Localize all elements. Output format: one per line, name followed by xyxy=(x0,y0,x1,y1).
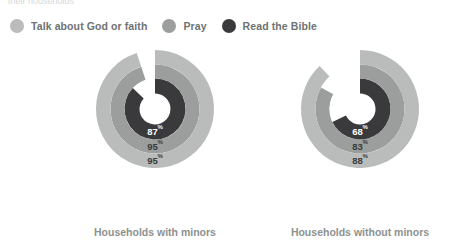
donut-svg: 88%83%68% xyxy=(301,50,419,168)
legend-item-bible[interactable]: Read the Bible xyxy=(222,19,317,33)
legend-item-label: Pray xyxy=(183,20,206,32)
donut-rings: 88%83%68% xyxy=(301,50,419,168)
donut-svg: 95%95%87% xyxy=(96,50,214,168)
legend-item-label: Read the Bible xyxy=(243,20,317,32)
circle-swatch-icon xyxy=(222,19,236,33)
donut-chart-households-with-minors: 95%95%87% Households with minors xyxy=(55,50,255,251)
top-caption-strip: their households xyxy=(8,0,308,6)
legend-item-talk[interactable]: Talk about God or faith xyxy=(10,19,147,33)
donut-chart-households-without-minors: 88%83%68% Households without minors xyxy=(260,50,460,251)
chart-caption: Households with minors xyxy=(55,226,255,238)
legend-item-label: Talk about God or faith xyxy=(31,20,147,32)
chart-caption: Households without minors xyxy=(260,226,460,238)
circle-swatch-icon xyxy=(162,19,176,33)
legend-item-pray[interactable]: Pray xyxy=(162,19,206,33)
charts-row: 95%95%87% Households with minors 88%83%6… xyxy=(0,50,461,251)
top-caption-text: their households xyxy=(8,0,308,6)
chart-legend: Talk about God or faith Pray Read the Bi… xyxy=(10,19,332,33)
donut-rings: 95%95%87% xyxy=(96,50,214,168)
circle-swatch-icon xyxy=(10,19,24,33)
